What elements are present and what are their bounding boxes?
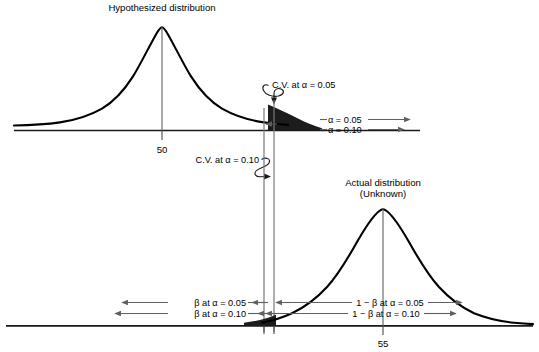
beta-010-label: β at α = 0.10 <box>194 309 246 319</box>
alpha-005-label: α = 0.05 <box>328 115 362 125</box>
cv-010-label: C.V. at α = 0.10 <box>196 155 259 165</box>
cv-005-label: C.V. at α = 0.05 <box>272 80 335 90</box>
figure-canvas: Hypothesized distribution 50 C.V. at α =… <box>0 0 539 352</box>
top-chart-group: Hypothesized distribution 50 C.V. at α =… <box>14 2 420 332</box>
beta-005-label: β at α = 0.05 <box>194 298 246 308</box>
statistics-figure: Hypothesized distribution 50 C.V. at α =… <box>0 0 539 352</box>
hypothesized-distribution-curve <box>14 27 288 125</box>
power-010-label: 1 − β at α = 0.10 <box>352 309 419 319</box>
bottom-chart-title-line2: (Unknown) <box>360 188 406 199</box>
top-chart-title: Hypothesized distribution <box>108 2 215 13</box>
power-005-label: 1 − β at α = 0.05 <box>356 298 423 308</box>
top-chart-mean-label: 50 <box>157 144 168 155</box>
bottom-chart-title-line1: Actual distribution <box>345 177 421 188</box>
alpha-rejection-region-shading <box>268 105 322 131</box>
alpha-010-label: α = 0.10 <box>328 125 362 135</box>
cv-010-arrowhead <box>264 174 271 180</box>
bottom-chart-mean-label: 55 <box>378 338 389 349</box>
bottom-chart-group: Actual distribution (Unknown) 55 β at α … <box>6 177 533 349</box>
